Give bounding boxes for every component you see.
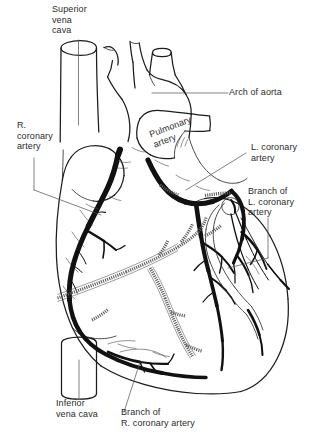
heart-diagram-svg — [0, 0, 320, 442]
label-r-coronary-artery-line1: R. — [17, 120, 26, 130]
label-l-coronary-artery-line2: artery — [251, 153, 275, 163]
label-l-coronary-artery-line1: L. coronary — [251, 142, 297, 152]
label-branch-r-coronary-line1: Branch of — [121, 407, 160, 417]
leader-branch-r-coronary-artery — [124, 362, 140, 412]
label-branch-l-coronary-line3: artery — [248, 207, 272, 217]
label-branch-l-coronary-line2: L. coronary — [248, 197, 294, 207]
label-arch-of-aorta: Arch of aorta — [229, 87, 282, 98]
leader-r-coronary-artery-2 — [34, 190, 101, 215]
leader-l-coronary-artery — [186, 153, 246, 190]
heart-outline — [56, 138, 288, 394]
hidden-posterior-vessels — [58, 185, 232, 359]
label-inferior-vena-cava-line2: vena cava — [56, 409, 98, 419]
label-superior-vena-cava-line3: cava — [52, 25, 71, 35]
label-r-coronary-artery-line3: artery — [17, 141, 41, 151]
label-r-coronary-artery: R.coronaryartery — [17, 120, 53, 152]
label-superior-vena-cava: Superiorvenacava — [52, 4, 87, 36]
label-inferior-vena-cava: Inferiorvena cava — [56, 398, 98, 419]
heart-anatomy-figure: Superiorvenacava Arch of aorta Pulmonary… — [0, 0, 320, 442]
label-branch-l-coronary-line1: Branch of — [248, 186, 287, 196]
label-superior-vena-cava-line1: Superior — [52, 4, 87, 14]
label-arch-of-aorta-line1: Arch of aorta — [229, 87, 282, 97]
label-inferior-vena-cava-line1: Inferior — [56, 398, 85, 408]
label-r-coronary-artery-line2: coronary — [17, 131, 53, 141]
label-branch-of-l-coronary-artery: Branch ofL. coronaryartery — [248, 186, 294, 218]
branch-of-left-coronary-artery — [205, 198, 289, 355]
label-l-coronary-artery: L. coronaryartery — [251, 142, 297, 163]
label-superior-vena-cava-line2: vena — [52, 15, 72, 25]
superior-vena-cava-vessel — [60, 41, 99, 180]
label-branch-r-coronary-line2: R. coronary artery — [121, 418, 195, 428]
label-branch-of-r-coronary-artery: Branch ofR. coronary artery — [121, 407, 195, 428]
